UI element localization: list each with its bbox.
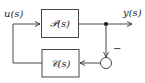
output-label: y(s) [122, 7, 142, 18]
summing-junction [101, 58, 112, 69]
feedback-block-label: 𝒞(s) [51, 58, 71, 69]
forward-block-label: 𝒫(s) [50, 18, 70, 29]
feedback-return-line [13, 24, 42, 63]
block-diagram: u(s) 𝒫(s) y(s) − 𝒞(s) [0, 0, 145, 83]
input-label: u(s) [4, 8, 23, 19]
minus-sign: − [113, 43, 121, 54]
